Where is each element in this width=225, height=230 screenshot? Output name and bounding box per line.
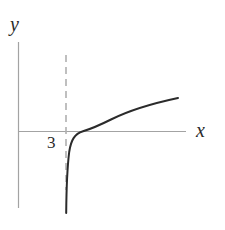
logarithm-graph-figure: y x 3 [0, 0, 225, 230]
plot-canvas [0, 0, 225, 230]
x-axis-label: x [196, 120, 205, 140]
y-axis-label: y [10, 14, 19, 34]
x-tick-label-3: 3 [47, 134, 56, 151]
logarithm-curve [66, 98, 178, 213]
